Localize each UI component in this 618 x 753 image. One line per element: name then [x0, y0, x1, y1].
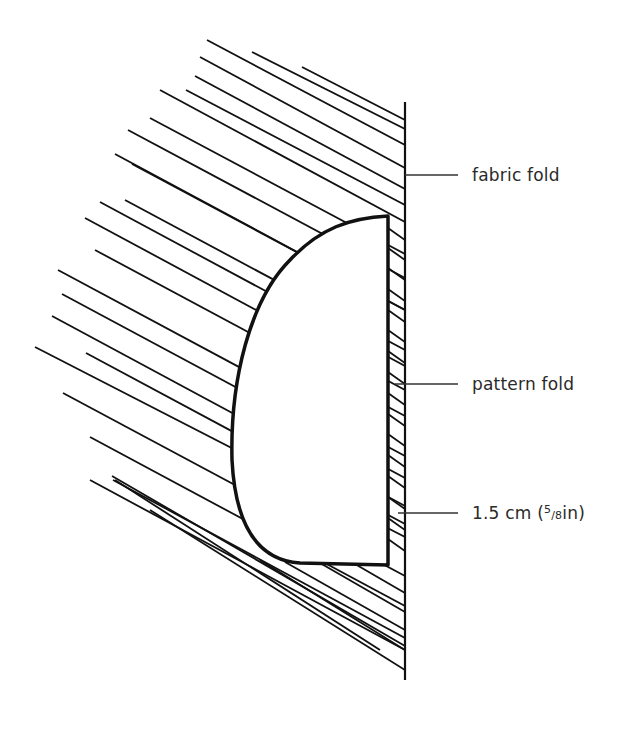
- fabric-fold-label: fabric fold: [472, 165, 560, 185]
- pattern-piece-outline: [232, 216, 388, 565]
- pattern-fold-label: pattern fold: [472, 374, 574, 394]
- seam-allowance-label: 1.5 cm (5/8in): [472, 503, 585, 523]
- seam-allowance-suffix: in): [562, 503, 585, 523]
- seam-allowance-prefix: 1.5 cm (: [472, 503, 544, 523]
